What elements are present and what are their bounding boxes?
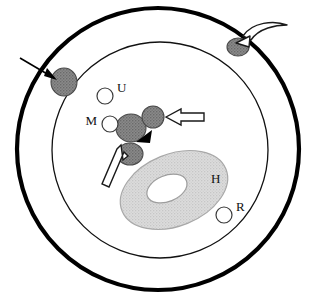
- cell-diagram: U M H R: [0, 0, 316, 295]
- vesicle-cluster-large: [116, 114, 146, 142]
- nucleus-H: [0, 0, 316, 295]
- label-R: R: [236, 199, 245, 214]
- open-circle-M: [102, 116, 118, 132]
- vesicle-membrane-left: [51, 68, 77, 96]
- open-circle-R: [216, 207, 232, 223]
- open-circle-U: [97, 88, 113, 104]
- figure-root: U M H R: [0, 0, 316, 295]
- vesicle-cluster-upper: [142, 106, 164, 128]
- label-M: M: [85, 113, 97, 128]
- label-H: H: [211, 171, 220, 186]
- label-U: U: [117, 80, 127, 95]
